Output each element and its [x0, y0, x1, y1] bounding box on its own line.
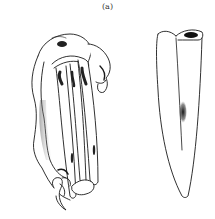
hood-outline — [38, 34, 91, 62]
spine-opening — [184, 32, 198, 38]
claw-drawing — [32, 34, 110, 210]
figure-illustration — [0, 0, 215, 219]
hook-claw — [52, 178, 66, 210]
spine-dark-mark — [179, 101, 187, 123]
spine-drawing — [157, 30, 203, 198]
